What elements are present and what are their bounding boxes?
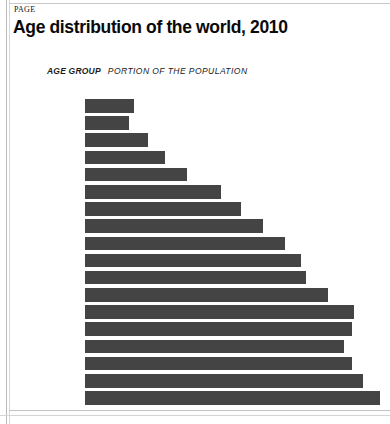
bar-chart-plot-area [85, 99, 380, 409]
page-edge-left-rule-secondary [9, 0, 10, 424]
bar [85, 219, 263, 233]
bar-row [85, 219, 380, 236]
bar [85, 271, 306, 285]
page-edge-left-rule [6, 0, 7, 424]
subtitle-age-group-label: AGE GROUP [47, 66, 101, 76]
page-edge-top-rule [9, 3, 390, 4]
bar-row [85, 254, 380, 271]
chart-subtitle: AGE GROUPPORTION OF THE POPULATION [47, 60, 247, 78]
bar [85, 288, 328, 302]
bar-row [85, 151, 380, 168]
bar-row [85, 391, 380, 408]
bar [85, 151, 165, 165]
bar-row [85, 133, 380, 150]
bar-row [85, 305, 380, 322]
scanned-page: PAGE Age distribution of the world, 2010… [0, 0, 390, 424]
bar-row [85, 271, 380, 288]
bar [85, 237, 285, 251]
bar [85, 322, 352, 336]
bar [85, 254, 301, 268]
bar-row [85, 185, 380, 202]
bar [85, 116, 129, 130]
bar-row [85, 340, 380, 357]
bar [85, 133, 148, 147]
bar-row [85, 237, 380, 254]
page-marker-label: PAGE [14, 5, 35, 14]
bar [85, 374, 363, 388]
bar-row [85, 99, 380, 116]
page-edge-bottom-rule-secondary [0, 415, 390, 416]
bar-row [85, 374, 380, 391]
bar-row [85, 322, 380, 339]
bar-row [85, 168, 380, 185]
bar [85, 202, 241, 216]
page-edge-bottom-rule [9, 410, 390, 411]
bar [85, 391, 380, 405]
bar [85, 168, 187, 182]
bar-row [85, 202, 380, 219]
bar [85, 305, 354, 319]
bar [85, 185, 221, 199]
bar [85, 99, 134, 113]
subtitle-portion-label: PORTION OF THE POPULATION [108, 66, 248, 76]
bar-row [85, 357, 380, 374]
bar-row [85, 288, 380, 305]
bar [85, 357, 352, 371]
chart-title: Age distribution of the world, 2010 [13, 17, 288, 38]
bar-row [85, 116, 380, 133]
bar [85, 340, 344, 354]
